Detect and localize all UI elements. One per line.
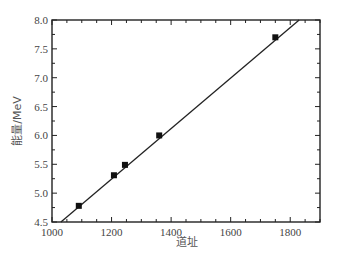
x-tick-label: 1200 — [101, 226, 124, 238]
y-tick-label: 6.0 — [34, 129, 48, 141]
y-tick-label: 4.5 — [34, 216, 48, 228]
faint-figure-caption — [100, 250, 338, 260]
y-tick-label: 7.0 — [34, 72, 48, 84]
x-tick-label: 1800 — [279, 226, 302, 238]
x-axis-ticks: 10001200140016001800 — [41, 20, 320, 238]
data-point-marker — [156, 132, 162, 138]
energy-calibration-chart: 10001200140016001800 4.55.05.56.06.57.07… — [0, 0, 338, 266]
y-tick-label: 6.5 — [34, 101, 48, 113]
linear-fit-line — [61, 20, 299, 222]
plot-frame — [52, 20, 320, 222]
data-point-marker — [122, 162, 128, 168]
plot-area-border — [52, 20, 320, 222]
x-tick-label: 1600 — [220, 226, 243, 238]
series-layer — [61, 20, 299, 222]
x-axis-title: 道址 — [176, 235, 198, 249]
y-tick-label: 8.0 — [34, 14, 48, 26]
y-tick-label: 7.5 — [34, 43, 48, 55]
y-axis-title: 能量/MeV — [10, 96, 24, 146]
y-tick-label: 5.0 — [34, 187, 48, 199]
y-tick-label: 5.5 — [34, 158, 48, 170]
data-point-marker — [111, 172, 117, 178]
data-point-marker — [272, 34, 278, 40]
data-point-marker — [76, 203, 82, 209]
y-axis-ticks: 4.55.05.56.06.57.07.58.0 — [34, 14, 320, 228]
